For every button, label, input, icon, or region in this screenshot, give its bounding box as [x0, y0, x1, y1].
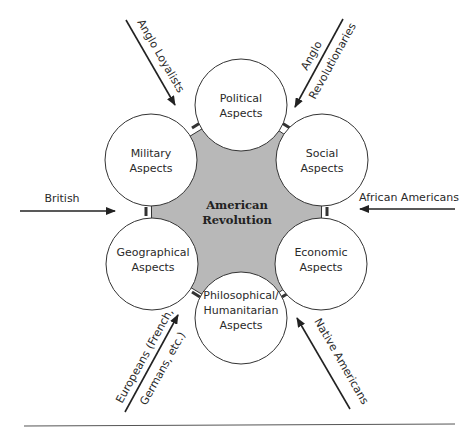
- svg-text:British: British: [44, 192, 79, 205]
- svg-text:Philosophical/: Philosophical/: [203, 289, 279, 302]
- arrow-europeans: Europeans (French, Germans, etc.): [113, 306, 188, 412]
- svg-text:American: American: [205, 198, 268, 212]
- svg-text:Aspects: Aspects: [219, 319, 262, 332]
- aspect-economic: Economic Aspects: [275, 218, 367, 310]
- svg-text:Economic: Economic: [294, 246, 347, 259]
- svg-text:Social: Social: [306, 147, 339, 160]
- aspect-military: Military Aspects: [105, 114, 197, 206]
- arrow-african-americans: African Americans: [359, 191, 459, 209]
- aspect-political: Political Aspects: [195, 59, 287, 151]
- svg-text:Aspects: Aspects: [299, 261, 342, 274]
- svg-text:Aspects: Aspects: [219, 107, 262, 120]
- svg-text:Anglo Loyalists: Anglo Loyalists: [134, 17, 187, 95]
- svg-text:Revolution: Revolution: [202, 213, 272, 227]
- aspect-geographical: Geographical Aspects: [106, 218, 198, 310]
- svg-text:African Americans: African Americans: [359, 191, 459, 204]
- arrow-native-americans: Native Americans: [297, 316, 371, 409]
- arrow-british: British: [20, 192, 115, 211]
- american-revolution-diagram: Political Aspects Military Aspects Socia…: [0, 0, 469, 433]
- svg-text:Humanitarian: Humanitarian: [203, 304, 278, 317]
- arrow-anglo-loyalists: Anglo Loyalists: [126, 17, 187, 105]
- svg-text:Aspects: Aspects: [129, 162, 172, 175]
- svg-text:Political: Political: [220, 92, 262, 105]
- aspect-philosophical: Philosophical/ Humanitarian Aspects: [195, 272, 287, 364]
- arrow-anglo-revolutionaries: Anglo Revolutionaries: [295, 19, 359, 107]
- bottom-divider: [24, 424, 455, 426]
- svg-text:Geographical: Geographical: [116, 246, 189, 259]
- svg-text:Military: Military: [131, 147, 172, 160]
- aspect-social: Social Aspects: [276, 114, 368, 206]
- svg-text:Aspects: Aspects: [131, 261, 174, 274]
- svg-text:Aspects: Aspects: [300, 162, 343, 175]
- center-label: American Revolution: [202, 198, 272, 227]
